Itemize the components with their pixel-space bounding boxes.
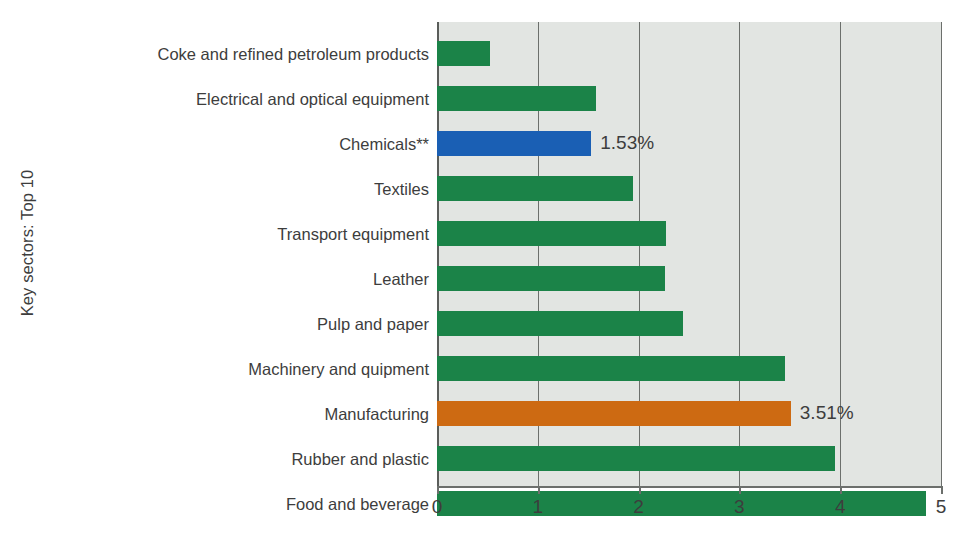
gridline-5 (941, 22, 942, 486)
bar-fill (437, 266, 665, 291)
bar-fill (437, 401, 791, 426)
bar-value-label: 3.51% (800, 402, 854, 424)
bar[interactable] (437, 41, 490, 66)
bar[interactable] (437, 176, 633, 201)
category-label: Rubber and plastic (17, 449, 437, 469)
x-tick-label-5: 5 (921, 496, 961, 518)
x-axis-line (437, 486, 942, 488)
category-label: Textiles (17, 179, 437, 199)
x-tick-label-2: 2 (619, 496, 659, 518)
category-label: Machinery and quipment (17, 359, 437, 379)
bar-fill (437, 311, 683, 336)
bar-fill (437, 356, 785, 381)
bar-fill (437, 221, 666, 246)
category-label: Manufacturing (17, 404, 437, 424)
x-tick-5 (941, 486, 943, 494)
x-tick-4 (840, 486, 842, 494)
bar[interactable] (437, 356, 785, 381)
bar-fill (437, 41, 490, 66)
x-tick-label-3: 3 (719, 496, 759, 518)
bar[interactable] (437, 221, 666, 246)
bar[interactable] (437, 86, 596, 111)
bar-fill (437, 131, 591, 156)
bar[interactable] (437, 266, 665, 291)
category-label: Electrical and optical equipment (17, 89, 437, 109)
x-tick-label-4: 4 (820, 496, 860, 518)
x-tick-2 (639, 486, 641, 494)
bar-fill (437, 446, 835, 471)
horizontal-bar-chart: Key sectors: Top 10 Coke and refined pet… (0, 0, 977, 547)
x-tick-label-0: 0 (417, 496, 457, 518)
category-label: Pulp and paper (17, 314, 437, 334)
x-tick-0 (437, 486, 439, 494)
bar[interactable] (437, 131, 591, 156)
bar[interactable] (437, 401, 791, 426)
bar-fill (437, 86, 596, 111)
bar[interactable] (437, 446, 835, 471)
category-label: Leather (17, 269, 437, 289)
x-tick-label-1: 1 (518, 496, 558, 518)
category-label: Chemicals** (17, 134, 437, 154)
category-label: Food and beverage (17, 494, 437, 514)
bar-value-label: 1.53% (600, 132, 654, 154)
bar-fill (437, 176, 633, 201)
category-label: Coke and refined petroleum products (17, 44, 437, 64)
x-tick-1 (538, 486, 540, 494)
x-tick-3 (739, 486, 741, 494)
bar[interactable] (437, 311, 683, 336)
category-label: Transport equipment (17, 224, 437, 244)
